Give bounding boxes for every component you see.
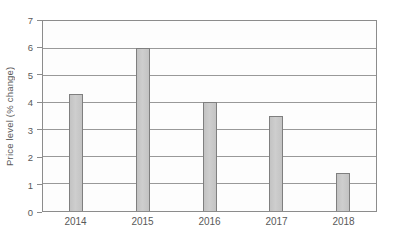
y-tick-mark xyxy=(37,102,42,103)
bar-2018 xyxy=(336,173,350,211)
bar-2017 xyxy=(269,116,283,211)
y-tick-mark xyxy=(37,47,42,48)
y-tick-label: 4 xyxy=(28,97,33,108)
x-tick-label: 2014 xyxy=(64,216,86,227)
y-tick-mark xyxy=(37,157,42,158)
y-tick-label: 1 xyxy=(28,180,33,191)
y-tick-label: 0 xyxy=(28,207,33,218)
x-axis: 20142015201620172018 xyxy=(42,213,377,233)
x-tick-label: 2015 xyxy=(131,216,153,227)
y-tick-mark xyxy=(37,184,42,185)
bar-2014 xyxy=(69,94,83,211)
y-tick-label: 6 xyxy=(28,42,33,53)
y-tick-mark xyxy=(37,129,42,130)
x-tick-label: 2018 xyxy=(332,216,354,227)
y-tick-label: 3 xyxy=(28,125,33,136)
gridline xyxy=(43,75,376,76)
gridline xyxy=(43,48,376,49)
bar-2015 xyxy=(136,48,150,211)
y-tick-label: 2 xyxy=(28,152,33,163)
x-tick-label: 2017 xyxy=(265,216,287,227)
plot-area xyxy=(42,20,377,212)
y-tick-label: 5 xyxy=(28,70,33,81)
x-tick-label: 2016 xyxy=(198,216,220,227)
y-tick-mark xyxy=(37,20,42,21)
bar-2016 xyxy=(203,102,217,211)
bar-chart-figure: Price level (% change) 01234567 20142015… xyxy=(0,0,397,243)
y-tick-label: 7 xyxy=(28,15,33,26)
y-tick-mark xyxy=(37,74,42,75)
y-axis: 01234567 xyxy=(0,20,42,212)
